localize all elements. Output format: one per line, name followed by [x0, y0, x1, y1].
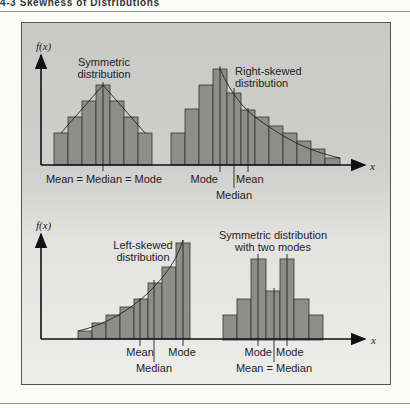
- bottom-panel: f(x) Left-skewed distribution Mean Mode …: [36, 219, 376, 374]
- symmetric-marker-label: Mean = Median = Mode: [46, 173, 162, 185]
- left-skewed-mode-label: Mode: [168, 346, 196, 358]
- bottom-rule: [0, 403, 410, 404]
- bimodal-bars: [223, 259, 323, 340]
- symmetric-title-1: Symmetric: [78, 56, 130, 68]
- bottom-y-axis-label: f(x): [36, 219, 52, 232]
- bimodal-title-2: with two modes: [234, 241, 311, 253]
- bimodal-mode2-label: Mode: [276, 346, 304, 358]
- right-skewed-title-1: Right-skewed: [235, 65, 302, 77]
- left-skewed-title-2: distribution: [116, 251, 169, 263]
- left-skewed-mean-label: Mean: [126, 346, 154, 358]
- top-x-axis-label: x: [369, 160, 375, 172]
- bottom-x-axis-label: x: [370, 334, 376, 346]
- top-panel: f(x) Symmetric distribution Mean = Media…: [36, 40, 375, 201]
- right-skewed-mode-label: Mode: [190, 173, 218, 185]
- right-skewed-median-label: Median: [216, 189, 252, 201]
- bimodal-title-1: Symmetric distribution: [219, 229, 327, 241]
- skewness-diagram: f(x) Symmetric distribution Mean = Media…: [0, 0, 410, 408]
- bimodal-center-label: Mean = Median: [236, 362, 312, 374]
- left-skewed-title-1: Left-skewed: [113, 239, 172, 251]
- right-skewed-mean-label: Mean: [236, 173, 264, 185]
- right-skewed-title-2: distribution: [235, 77, 288, 89]
- top-y-axis-label: f(x): [36, 40, 52, 53]
- symmetric-title-2: distribution: [77, 68, 130, 80]
- bimodal-mode1-label: Mode: [244, 346, 272, 358]
- left-skewed-median-label: Median: [136, 362, 172, 374]
